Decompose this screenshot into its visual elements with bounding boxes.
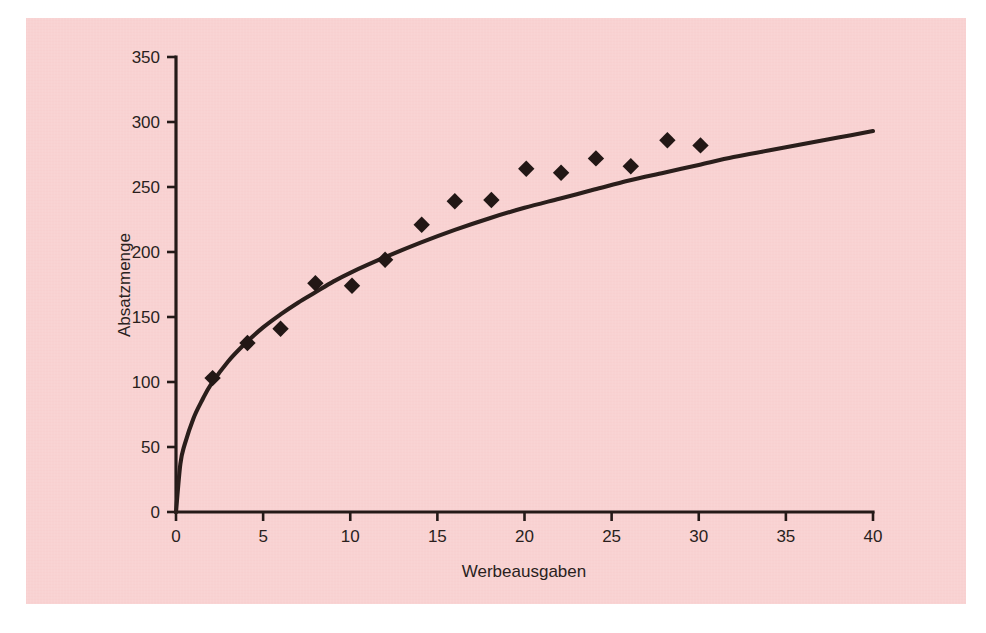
y-tick-label: 300: [132, 113, 160, 132]
y-tick-label: 100: [132, 373, 160, 392]
x-tick-label: 40: [864, 527, 883, 546]
x-axis-title: Werbeausgaben: [462, 562, 586, 581]
x-tick-label: 30: [689, 527, 708, 546]
x-tick-label: 5: [258, 527, 267, 546]
data-point-marker: [344, 278, 360, 294]
data-point-marker: [413, 217, 429, 233]
y-axis-tick-labels: 050100150200250300350: [132, 48, 160, 522]
data-point-marker: [447, 193, 463, 209]
y-tick-label: 350: [132, 48, 160, 67]
data-point-marker: [692, 137, 708, 153]
y-tick-label: 150: [132, 308, 160, 327]
x-tick-label: 0: [171, 527, 180, 546]
y-tick-label: 50: [141, 438, 160, 457]
data-point-marker: [553, 165, 569, 181]
data-point-marker: [588, 150, 604, 166]
x-tick-label: 35: [776, 527, 795, 546]
chart-plot-area: 050100150200250300350 0510152025303540 W…: [26, 18, 966, 604]
chart-panel: 050100150200250300350 0510152025303540 W…: [26, 18, 966, 604]
y-tick-label: 0: [151, 503, 160, 522]
x-axis-tick-labels: 0510152025303540: [171, 527, 882, 546]
data-point-marker: [483, 192, 499, 208]
data-point-marker: [518, 161, 534, 177]
y-tick-label: 250: [132, 178, 160, 197]
data-point-markers: [204, 132, 708, 386]
y-tick-label: 200: [132, 243, 160, 262]
x-tick-label: 20: [515, 527, 534, 546]
figure-root: 050100150200250300350 0510152025303540 W…: [0, 0, 986, 633]
x-tick-label: 25: [602, 527, 621, 546]
data-point-marker: [623, 158, 639, 174]
data-point-marker: [272, 321, 288, 337]
x-tick-label: 10: [341, 527, 360, 546]
y-axis-title: Absatzmenge: [115, 233, 134, 337]
x-tick-label: 15: [428, 527, 447, 546]
data-point-marker: [659, 132, 675, 148]
